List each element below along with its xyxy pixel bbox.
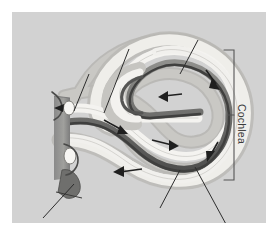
diagram-panel: Cochlea	[12, 12, 266, 223]
cochlea-label: Cochlea	[236, 104, 248, 144]
arrow-upper-return	[158, 91, 182, 102]
cochlea-diagram	[12, 12, 266, 223]
figure-page: Cochlea	[0, 0, 276, 240]
